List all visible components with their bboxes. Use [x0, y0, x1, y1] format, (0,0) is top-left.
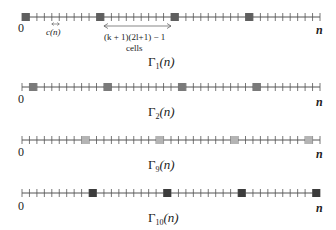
gamma-9-marked-cell	[156, 136, 163, 144]
line2-n-label: n	[316, 96, 323, 108]
gamma-1-marked-cell	[171, 13, 178, 21]
gamma-9-marked-cell	[305, 136, 312, 144]
gamma-9-marked-cell	[82, 136, 89, 144]
gamma-10-marked-cell	[313, 189, 320, 197]
gamma-2-marked-cell	[253, 83, 260, 91]
line3-zero-label: 0	[18, 146, 24, 158]
cell-width-label: c(n)	[46, 28, 61, 37]
gamma-9-label: Γ9(n)	[148, 158, 175, 171]
gamma-2-marked-cell	[178, 83, 185, 91]
gamma-2-marked-cell	[104, 83, 111, 91]
gamma-1-marked-cell	[22, 13, 29, 21]
gamma-10-marked-cell	[164, 189, 171, 197]
line2-zero-label: 0	[18, 93, 24, 105]
gamma-1-marked-cell	[246, 13, 253, 21]
line1-n-label: n	[316, 24, 323, 36]
line1-zero-label: 0	[18, 22, 24, 34]
gamma-2-marked-cell	[29, 83, 36, 91]
gamma-2-label: Γ2(n)	[148, 105, 175, 118]
gamma-10-marked-cell	[89, 189, 96, 197]
gamma-1-label: Γ1(n)	[148, 55, 175, 68]
gamma-10-label: Γ10(n)	[148, 211, 179, 224]
span-label-cells: cells	[126, 44, 143, 53]
gamma-10-marked-cell	[238, 189, 245, 197]
gamma-9-marked-cell	[231, 136, 238, 144]
line4-zero-label: 0	[18, 200, 24, 212]
gamma-1-marked-cell	[97, 13, 104, 21]
line3-n-label: n	[316, 148, 323, 160]
line4-n-label: n	[316, 202, 323, 214]
span-label-formula: (k + 1)(2l+1) − 1	[104, 33, 165, 42]
